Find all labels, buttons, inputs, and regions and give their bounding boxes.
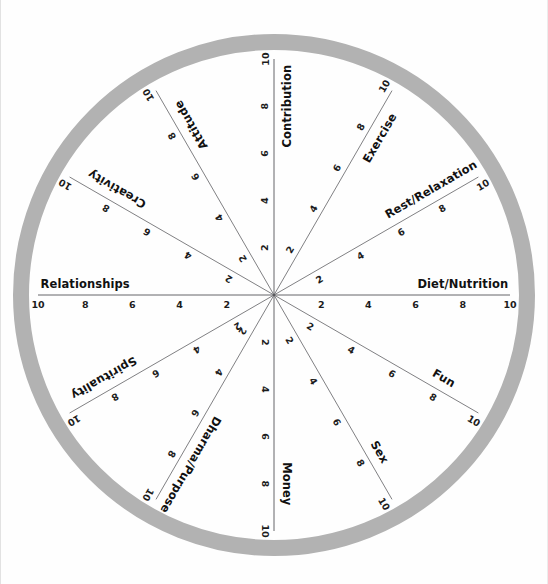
tick-label: 8 xyxy=(354,121,367,133)
tick-label: 2 xyxy=(236,253,249,264)
tick-label: 2 xyxy=(318,299,325,310)
tick-label: 10 xyxy=(140,486,156,503)
wheel-of-life-page: 2468102468102468102468102468102468102468… xyxy=(0,0,548,584)
tick-label: 2 xyxy=(305,320,316,333)
tick-label: 2 xyxy=(223,299,230,310)
axis-label-attitude[interactable]: Attitude xyxy=(171,98,210,152)
tick-label: 10 xyxy=(376,77,392,94)
tick-label: 6 xyxy=(387,367,399,380)
axis-label-sex[interactable]: Sex xyxy=(368,438,392,466)
spoke-line-fun xyxy=(274,295,478,413)
tick-label: 10 xyxy=(260,52,271,66)
tick-label: 4 xyxy=(260,197,271,204)
tick-label: 8 xyxy=(427,391,439,404)
tick-label: 10 xyxy=(474,177,491,193)
axis-label-relationships[interactable]: Relationships xyxy=(41,277,130,291)
tick-label: 10 xyxy=(376,495,392,512)
spoke-line-dharma-purpose xyxy=(156,295,274,499)
tick-label: 8 xyxy=(100,202,112,215)
tick-label: 2 xyxy=(314,273,325,286)
axis-label-fun[interactable]: Fun xyxy=(430,366,458,390)
tick-label: 6 xyxy=(141,225,153,238)
tick-label: 6 xyxy=(260,433,271,440)
tick-label: 8 xyxy=(82,299,89,310)
tick-label: 4 xyxy=(355,249,367,262)
tick-label: 6 xyxy=(331,162,344,174)
tick-label: 6 xyxy=(396,225,408,238)
spoke-line-attitude xyxy=(156,91,274,295)
tick-label: 6 xyxy=(331,417,344,429)
tick-label: 8 xyxy=(260,480,271,487)
tick-label: 8 xyxy=(165,130,178,142)
tick-label: 4 xyxy=(365,299,372,310)
tick-label: 10 xyxy=(31,299,45,310)
spokes-group xyxy=(38,59,510,531)
tick-label: 6 xyxy=(189,171,202,183)
tick-label: 2 xyxy=(232,320,243,333)
axis-label-spirituality[interactable]: Spirituality xyxy=(68,354,139,403)
tick-label: 8 xyxy=(109,391,121,404)
tick-label: 4 xyxy=(182,249,194,262)
axis-label-exercise[interactable]: Exercise xyxy=(360,111,400,166)
tick-label: 4 xyxy=(260,386,271,393)
tick-label: 4 xyxy=(307,203,320,215)
tick-label: 4 xyxy=(346,344,358,357)
tick-label: 2 xyxy=(283,335,296,346)
tick-label: 10 xyxy=(56,177,73,193)
axis-label-diet-nutrition[interactable]: Diet/Nutrition xyxy=(417,277,508,291)
tick-label: 8 xyxy=(165,448,178,460)
spoke-line-spirituality xyxy=(70,295,274,413)
tick-label: 4 xyxy=(212,367,225,379)
tick-label: 6 xyxy=(129,299,136,310)
tick-label: 4 xyxy=(212,212,225,224)
tick-label: 8 xyxy=(260,103,271,110)
axis-label-rest-relaxation[interactable]: Rest/Relaxation xyxy=(383,157,480,221)
tick-label: 6 xyxy=(412,299,419,310)
tick-label: 2 xyxy=(260,244,271,251)
axis-label-dharma-purpose[interactable]: Dharma/Purpose xyxy=(157,414,224,516)
tick-label: 2 xyxy=(283,244,296,255)
axis-label-contribution[interactable]: Contribution xyxy=(280,65,294,148)
tick-label: 8 xyxy=(354,457,367,469)
tick-label: 4 xyxy=(191,344,203,357)
tick-label: 10 xyxy=(140,86,156,103)
tick-label: 10 xyxy=(260,524,271,538)
tick-label: 2 xyxy=(260,339,271,346)
tick-label: 8 xyxy=(459,299,466,310)
tick-label: 10 xyxy=(65,413,82,429)
tick-label: 8 xyxy=(436,202,448,215)
tick-label: 6 xyxy=(150,367,162,380)
tick-label: 4 xyxy=(176,299,183,310)
tick-label: 6 xyxy=(260,150,271,157)
tick-label: 4 xyxy=(307,376,320,388)
axis-label-money[interactable]: Money xyxy=(280,462,294,506)
tick-label: 2 xyxy=(223,273,234,286)
tick-label: 10 xyxy=(465,413,482,429)
axis-label-creativity[interactable]: Creativity xyxy=(85,167,148,212)
wheel-of-life-diagram: 2468102468102468102468102468102468102468… xyxy=(1,0,548,584)
tick-label: 6 xyxy=(189,408,202,420)
tick-label: 10 xyxy=(503,299,517,310)
